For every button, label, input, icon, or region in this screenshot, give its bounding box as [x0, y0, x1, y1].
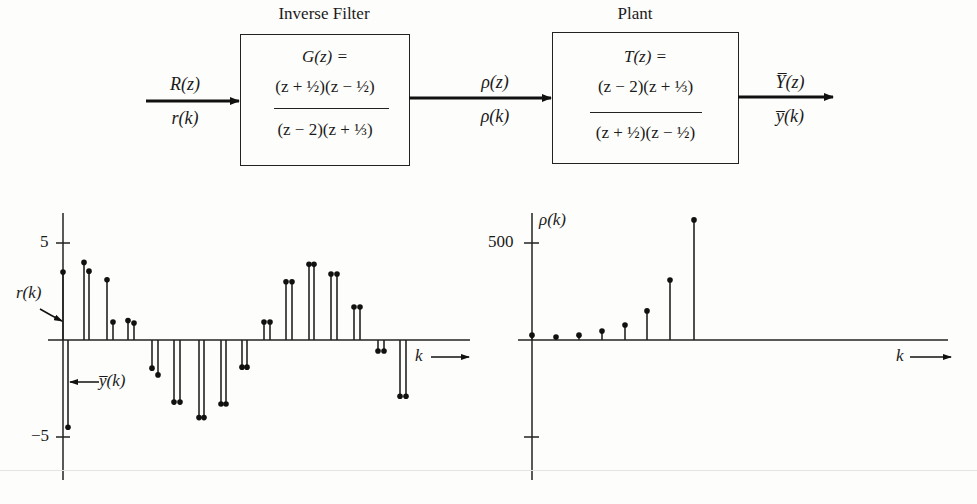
rho-axis-label: ρ(k) — [539, 210, 566, 230]
r-annotation-label: r(k) — [16, 283, 41, 303]
left-plot-stems — [60, 260, 409, 431]
page-edge — [0, 470, 977, 471]
right-y-tick-500: 500 — [488, 232, 514, 252]
diagram-arrows — [0, 0, 977, 504]
left-y-tick-5: 5 — [40, 232, 49, 252]
right-plot-axes — [518, 213, 948, 480]
right-k-label: k — [896, 346, 904, 366]
ybar-annotation-label: y̅(k) — [99, 371, 125, 391]
left-y-tick-neg5: −5 — [31, 426, 49, 446]
right-plot-stems — [529, 217, 697, 340]
signal-arrows — [146, 97, 833, 101]
left-k-label: k — [415, 346, 423, 366]
r-annotation-arrow — [40, 309, 62, 321]
